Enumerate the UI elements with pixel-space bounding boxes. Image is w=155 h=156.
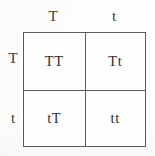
top-allele-label-0: T xyxy=(42,9,64,24)
side-allele-label-0: T xyxy=(3,51,23,66)
punnett-cell: tT xyxy=(24,90,85,147)
genotype-text: tt xyxy=(111,111,120,126)
genotype-text: tT xyxy=(47,111,61,126)
punnett-cell: tt xyxy=(85,90,146,147)
punnett-cell: TT xyxy=(24,33,85,90)
genotype-text: TT xyxy=(45,54,64,69)
genotype-text: Tt xyxy=(108,54,122,69)
punnett-cell: Tt xyxy=(85,33,146,90)
top-allele-label-1: t xyxy=(103,9,125,24)
punnett-grid: TT Tt tT tt xyxy=(23,32,146,147)
side-allele-label-1: t xyxy=(3,111,23,126)
punnett-square-figure: T t T t TT Tt tT tt xyxy=(0,0,155,156)
